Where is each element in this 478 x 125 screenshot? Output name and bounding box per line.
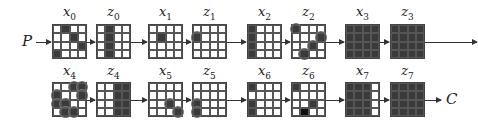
grid-cell	[114, 25, 122, 33]
ciphertext-label: C	[446, 90, 457, 108]
grid-cell	[97, 91, 105, 99]
grid-cell	[78, 100, 86, 108]
grid-cell	[346, 33, 354, 41]
grid-cell	[105, 108, 113, 116]
grid-cell	[300, 100, 308, 108]
grid-cell	[256, 83, 264, 91]
grid-cell	[105, 100, 113, 108]
grid-cell	[300, 83, 308, 91]
flow-arrow	[183, 42, 191, 43]
grid-cell	[391, 100, 399, 108]
grid-cell	[371, 33, 379, 41]
grid-cell	[354, 50, 362, 58]
state-label-z1: z1	[203, 4, 216, 22]
grid-cell	[70, 42, 78, 50]
grid-cell	[248, 108, 256, 116]
grid-cell	[201, 25, 209, 33]
grid-cell	[122, 91, 130, 99]
grid-cell	[371, 25, 379, 33]
grid-cell	[354, 33, 362, 41]
grid-cell	[61, 50, 69, 58]
grid-cell	[354, 25, 362, 33]
grid-cell	[248, 83, 256, 91]
grid-cell	[53, 33, 61, 41]
grid-cell	[166, 25, 174, 33]
flow-arrow	[87, 100, 95, 101]
grid-cell	[391, 50, 399, 58]
state-label-x7: x7	[356, 63, 369, 81]
grid-cell	[174, 108, 182, 116]
flow-arrow	[326, 42, 344, 43]
grid-cell	[416, 83, 424, 91]
grid-cell	[256, 91, 264, 99]
grid-cell	[114, 83, 122, 91]
grid-cell	[201, 91, 209, 99]
grid-cell	[218, 50, 226, 58]
grid-cell	[97, 83, 105, 91]
grid-cell	[309, 83, 317, 91]
grid-cell	[309, 108, 317, 116]
grid-cell	[273, 83, 281, 91]
grid-cell	[354, 100, 362, 108]
grid-cell	[122, 42, 130, 50]
grid-cell	[78, 25, 86, 33]
flow-arrow	[183, 100, 191, 101]
grid-cell	[371, 42, 379, 50]
grid-cell	[309, 42, 317, 50]
grid-cell	[273, 42, 281, 50]
grid-cell	[354, 83, 362, 91]
grid-cell	[210, 83, 218, 91]
grid-cell	[346, 25, 354, 33]
grid-cell	[149, 108, 157, 116]
grid-cell	[174, 33, 182, 41]
grid-cell	[193, 83, 201, 91]
grid-cell	[408, 108, 416, 116]
grid-cell	[371, 108, 379, 116]
grid-cell	[97, 50, 105, 58]
grid-cell	[122, 83, 130, 91]
grid-cell	[256, 108, 264, 116]
grid-cell	[371, 83, 379, 91]
flow-arrow	[282, 42, 290, 43]
grid-cell	[391, 83, 399, 91]
grid-cell	[114, 100, 122, 108]
state-grid-x0	[52, 24, 87, 59]
state-label-z7: z7	[401, 63, 414, 81]
grid-cell	[114, 108, 122, 116]
grid-cell	[309, 25, 317, 33]
grid-cell	[265, 42, 273, 50]
grid-cell	[122, 108, 130, 116]
grid-cell	[399, 25, 407, 33]
grid-cell	[273, 108, 281, 116]
grid-cell	[292, 42, 300, 50]
grid-cell	[174, 50, 182, 58]
grid-cell	[391, 42, 399, 50]
state-label-x1: x1	[159, 4, 172, 22]
grid-cell	[97, 33, 105, 41]
grid-cell	[292, 83, 300, 91]
grid-cell	[201, 42, 209, 50]
grid-cell	[256, 100, 264, 108]
grid-cell	[97, 100, 105, 108]
grid-cell	[265, 50, 273, 58]
grid-cell	[265, 108, 273, 116]
grid-cell	[210, 100, 218, 108]
grid-cell	[273, 33, 281, 41]
state-grid-x5	[148, 82, 183, 117]
grid-cell	[391, 33, 399, 41]
state-grid-x2	[247, 24, 282, 59]
grid-cell	[273, 25, 281, 33]
grid-cell	[248, 25, 256, 33]
grid-cell	[193, 108, 201, 116]
grid-cell	[346, 108, 354, 116]
state-grid-z3	[390, 24, 425, 59]
grid-cell	[97, 25, 105, 33]
grid-cell	[210, 42, 218, 50]
grid-cell	[391, 91, 399, 99]
grid-cell	[157, 42, 165, 50]
grid-cell	[70, 33, 78, 41]
grid-cell	[399, 100, 407, 108]
state-label-z0: z0	[107, 4, 120, 22]
grid-cell	[218, 83, 226, 91]
grid-cell	[300, 108, 308, 116]
